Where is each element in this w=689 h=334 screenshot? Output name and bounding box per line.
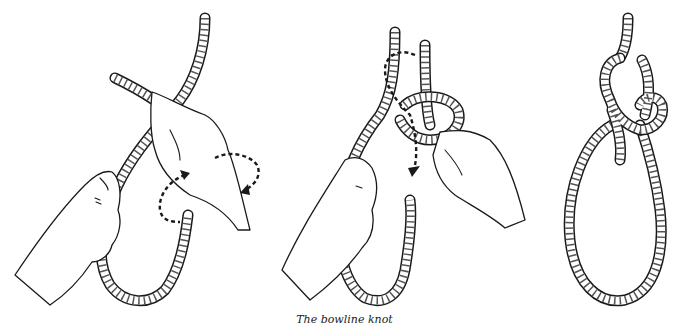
right-hand-icon xyxy=(151,92,250,230)
left-hand-icon xyxy=(282,158,377,300)
illustration-canvas xyxy=(0,0,689,334)
bowline-knot-illustration: The bowline knot xyxy=(0,0,689,334)
figure-caption: The bowline knot xyxy=(0,313,689,326)
right-hand-icon xyxy=(433,130,525,228)
panel-3-finished-knot xyxy=(569,18,662,301)
panel-1-forming-loop xyxy=(15,18,259,305)
panel-2-passing-end xyxy=(282,32,525,301)
rope-icon xyxy=(569,18,662,301)
